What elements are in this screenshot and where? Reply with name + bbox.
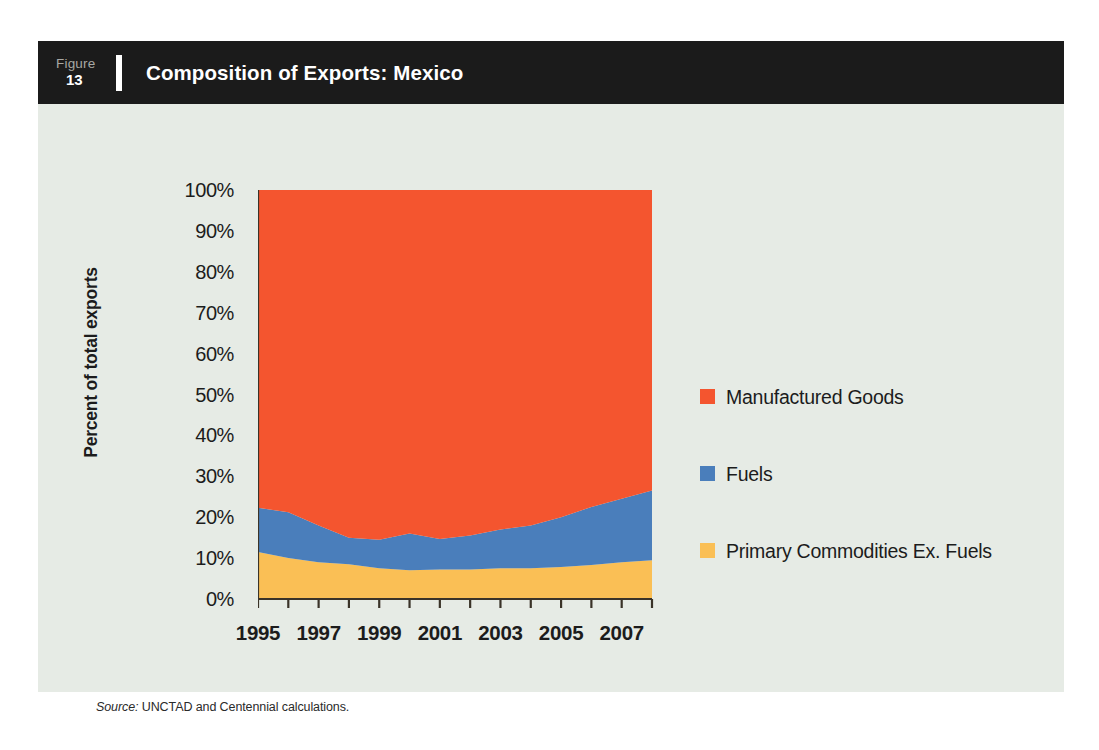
y-tick-label: 50% [162, 383, 234, 406]
x-tick-label: 2001 [418, 621, 462, 645]
figure-title: Composition of Exports: Mexico [146, 61, 463, 85]
x-tick-label: 2003 [478, 621, 522, 645]
figure-header-bar: Figure 13 Composition of Exports: Mexico [38, 41, 1064, 104]
y-tick-label: 30% [162, 465, 234, 488]
chart-plot-area: Percent of total exports 0%10%20%30%40%5… [38, 104, 1064, 692]
legend-label-fuels: Fuels [726, 462, 772, 487]
legend-label-primary-commodities: Primary Commodities Ex. Fuels [726, 539, 992, 564]
y-axis-title: Percent of total exports [81, 248, 102, 478]
x-tick-label: 1995 [236, 621, 280, 645]
legend-label-manufactured-goods: Manufactured Goods [726, 385, 904, 410]
legend-item-primary-commodities: Primary Commodities Ex. Fuels [700, 539, 1030, 564]
y-tick-label: 20% [162, 506, 234, 529]
figure-label: Figure [56, 57, 114, 71]
x-tick-label: 2005 [539, 621, 583, 645]
legend-item-fuels: Fuels [700, 462, 1030, 487]
source-note: Source: UNCTAD and Centennial calculatio… [96, 700, 349, 714]
y-tick-label: 40% [162, 424, 234, 447]
legend-swatch-icon-fuels [700, 466, 715, 481]
y-tick-label: 90% [162, 219, 234, 242]
figure-number: 13 [56, 72, 114, 88]
x-axis-tick-labels: 1995199719992001200320052007 [258, 104, 658, 692]
x-tick-label: 2007 [599, 621, 643, 645]
y-tick-label: 80% [162, 260, 234, 283]
legend-swatch-icon-manufactured-goods [700, 389, 715, 404]
y-tick-label: 70% [162, 301, 234, 324]
y-tick-label: 0% [162, 588, 234, 611]
figure-number-block: Figure 13 [38, 57, 114, 88]
header-divider [116, 55, 122, 91]
figure-card: Figure 13 Composition of Exports: Mexico… [38, 41, 1064, 692]
source-text: UNCTAD and Centennial calculations. [142, 700, 349, 714]
x-tick-label: 1997 [296, 621, 340, 645]
source-prefix: Source: [96, 700, 138, 714]
y-axis-tick-labels: 0%10%20%30%40%50%60%70%80%90%100% [162, 104, 234, 692]
legend-item-manufactured-goods: Manufactured Goods [700, 385, 1030, 410]
legend-swatch-icon-primary-commodities [700, 543, 715, 558]
x-tick-label: 1999 [357, 621, 401, 645]
y-tick-label: 100% [162, 179, 234, 202]
chart-legend: Manufactured Goods Fuels Primary Commodi… [700, 385, 1030, 615]
y-tick-label: 10% [162, 547, 234, 570]
y-tick-label: 60% [162, 342, 234, 365]
